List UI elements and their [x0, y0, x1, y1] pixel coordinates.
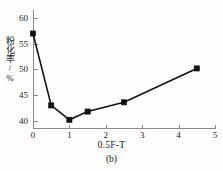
x-tick-label: 5 [213, 131, 218, 140]
series-line-pulverization-rate [33, 34, 197, 120]
x-tick-label: 2 [104, 131, 109, 140]
y-tick-label: 40 [6, 116, 28, 125]
figure-caption: (b) [0, 154, 223, 164]
x-tick-label: 1 [67, 131, 72, 140]
y-tick-label: 45 [6, 91, 28, 100]
data-point-marker [121, 100, 126, 105]
data-point-marker [194, 66, 199, 71]
y-tick-label: 60 [6, 14, 28, 23]
axes-group [34, 10, 216, 129]
y-axis-title: 粉化率/% [1, 36, 15, 83]
figure-container: 4045505560 012345 粉化率/% 0.5F-T (b) [0, 0, 223, 171]
x-axis-title: 0.5F-T [0, 140, 223, 150]
data-point-marker [30, 31, 35, 36]
data-point-marker [49, 103, 54, 108]
data-point-marker [85, 109, 90, 114]
x-tick-label: 0 [31, 131, 36, 140]
x-tick-label: 3 [140, 131, 145, 140]
data-point-marker [67, 117, 72, 122]
x-tick-label: 4 [176, 131, 181, 140]
